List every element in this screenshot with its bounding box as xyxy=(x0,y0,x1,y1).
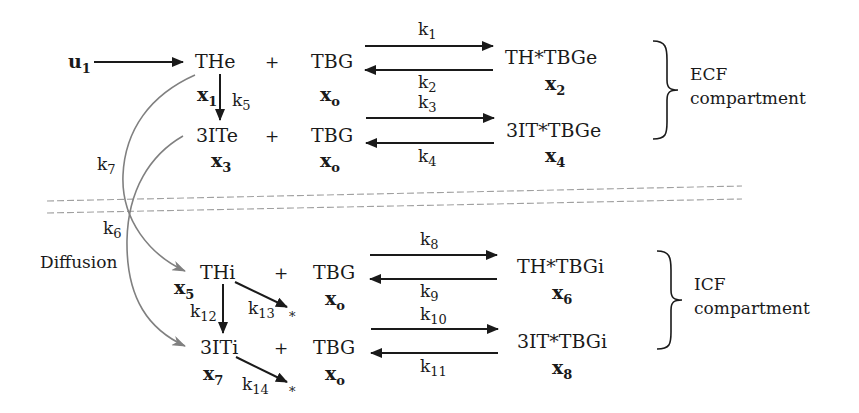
rate-k3: k3 xyxy=(418,92,437,115)
icf-label-line2: compartment xyxy=(694,298,810,318)
rate-k5: k5 xyxy=(232,90,251,113)
var-x7: x7 xyxy=(203,362,223,388)
species-tbg: TBG xyxy=(313,261,355,283)
ecf-brace xyxy=(653,41,678,139)
membrane-boundary xyxy=(47,186,742,213)
var-x2: x2 xyxy=(545,72,565,98)
rate-k7: k7 xyxy=(97,154,116,177)
icf-brace xyxy=(657,251,682,349)
thyroid-hormone-compartment-diagram: u1 THe + TBG x1 xo k1 k2 TH*TBGe x2 k5 3… xyxy=(0,0,859,413)
boundary-dashed-line-upper xyxy=(47,186,742,201)
rate-k9: k9 xyxy=(420,281,439,304)
species-3iti: 3ITi xyxy=(200,336,238,358)
ecf-label-line1: ECF xyxy=(690,64,727,84)
arrow-k13-elimination xyxy=(235,282,287,307)
complex-3it-tbgi: 3IT*TBGi xyxy=(517,330,607,352)
plus-sign: + xyxy=(274,338,288,358)
diffusion-curve-3it xyxy=(127,136,185,346)
rate-k8: k8 xyxy=(420,229,439,252)
icf-label-line1: ICF xyxy=(694,274,726,294)
species-tbg: TBG xyxy=(313,336,355,358)
var-xo: xo xyxy=(325,362,345,388)
rate-k4: k4 xyxy=(418,146,437,169)
species-tbg: TBG xyxy=(311,50,353,72)
rate-k10: k10 xyxy=(420,304,447,327)
var-x5: x5 xyxy=(174,276,194,302)
rate-k12: k12 xyxy=(190,301,217,324)
var-x1: x1 xyxy=(197,83,217,109)
var-x8: x8 xyxy=(552,356,572,382)
species-thi: THi xyxy=(200,261,235,283)
var-xo: xo xyxy=(325,287,345,313)
rate-k1: k1 xyxy=(418,19,437,42)
boundary-dashed-line-lower xyxy=(47,199,742,213)
species-3ite: 3ITe xyxy=(196,124,238,146)
icf-compartment: THi + TBG x5 xo k8 k9 TH*TBGi x6 k12 k13… xyxy=(174,229,810,399)
var-xo: xo xyxy=(320,83,340,109)
plus-sign: + xyxy=(265,126,279,146)
sink-asterisk: * xyxy=(289,309,296,324)
complex-3it-tbge: 3IT*TBGe xyxy=(506,119,601,141)
ecf-label-line2: compartment xyxy=(690,88,806,108)
var-x4: x4 xyxy=(545,144,565,170)
complex-th-tbgi: TH*TBGi xyxy=(517,255,604,277)
species-the: THe xyxy=(195,50,236,72)
rate-k13: k13 xyxy=(248,298,275,321)
diffusion-curve-th xyxy=(123,75,195,271)
var-x3: x3 xyxy=(211,149,231,175)
complex-th-tbge: TH*TBGe xyxy=(505,46,597,68)
ecf-compartment: u1 THe + TBG x1 xo k1 k2 TH*TBGe x2 k5 3… xyxy=(68,19,806,175)
diffusion-label: Diffusion xyxy=(40,252,117,272)
species-tbg: TBG xyxy=(311,124,353,146)
plus-sign: + xyxy=(274,263,288,283)
var-xo: xo xyxy=(320,149,340,175)
rate-k6: k6 xyxy=(103,218,122,241)
sink-asterisk: * xyxy=(289,384,296,399)
var-x6: x6 xyxy=(552,281,572,307)
input-u1: u1 xyxy=(68,50,91,76)
plus-sign: + xyxy=(265,52,279,72)
rate-k14: k14 xyxy=(242,374,269,397)
rate-k11: k11 xyxy=(420,356,447,379)
